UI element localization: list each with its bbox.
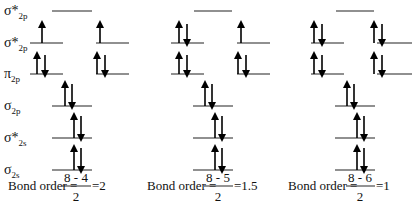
label-sigma-star-2s: σ*2s [4,130,27,148]
bond-order-denominator: 2 [73,189,80,204]
bond-order-result: =2 [92,178,106,193]
label-pi-star-2p: σ*2p [4,35,28,53]
orbital-labels: σ*2p σ*2p π2p σ2p σ*2s σ2s [4,3,28,180]
bond-order-label: Bond order = [288,178,357,193]
bond-order-result: =1.5 [234,178,258,193]
label-sigma-star-2p-top: σ*2p [4,3,28,21]
label-pi-2p: π2p [4,66,21,84]
bond-order-numerator: 8 - 4 [64,170,88,185]
diagram-1: Bond order = 8 - 4 2 =2 [8,11,129,204]
label-sigma-2p: σ2p [4,98,21,116]
bond-order-result: =1 [376,178,390,193]
diagram-3: Bond order = 8 - 6 2 =1 [288,11,412,204]
bond-order-numerator: 8 - 5 [206,170,230,185]
diagram-2: Bond order = 8 - 5 2 =1.5 [147,11,270,204]
bond-order-numerator: 8 - 6 [348,170,372,185]
bond-order-denominator: 2 [215,189,222,204]
bond-order-denominator: 2 [357,189,364,204]
mo-diagram: σ*2p σ*2p π2p σ2p σ*2s σ2s Bond orde [0,0,414,205]
